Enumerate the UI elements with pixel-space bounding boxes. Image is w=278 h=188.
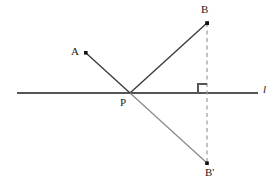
- segment-a-p: [86, 53, 130, 93]
- segment-p-b: [130, 23, 207, 93]
- point-label-b: B: [201, 4, 208, 15]
- figure-canvas: [0, 0, 278, 188]
- point-label-a: A: [71, 46, 79, 57]
- point-marker-b: [205, 21, 209, 25]
- point-marker-bprime: [205, 161, 209, 165]
- segment-p-bprime: [130, 93, 207, 163]
- point-label-b-prime: B': [205, 167, 214, 178]
- point-label-p: P: [120, 97, 126, 108]
- geometry-figure: A B P B' l: [0, 0, 278, 188]
- point-marker-a: [84, 51, 88, 55]
- right-angle-marker: [198, 84, 207, 93]
- line-label-l: l: [263, 84, 266, 95]
